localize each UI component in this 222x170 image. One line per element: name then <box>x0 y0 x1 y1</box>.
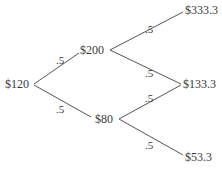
node-up-value: $200 <box>80 44 104 56</box>
node-upup-value: $333.3 <box>185 4 218 16</box>
prob-root-down: .5 <box>56 104 64 115</box>
prob-down-downdown: .5 <box>145 140 153 151</box>
prob-up-middle: .5 <box>145 68 153 79</box>
prob-root-up: .5 <box>56 55 64 66</box>
node-down-value: $80 <box>95 113 113 125</box>
prob-up-upup: .5 <box>145 24 153 35</box>
node-downdown-value: $53.3 <box>185 151 212 163</box>
node-middle-value: $133.3 <box>183 78 216 90</box>
prob-down-middle: .5 <box>145 93 153 104</box>
node-root-value: $120 <box>5 78 29 90</box>
